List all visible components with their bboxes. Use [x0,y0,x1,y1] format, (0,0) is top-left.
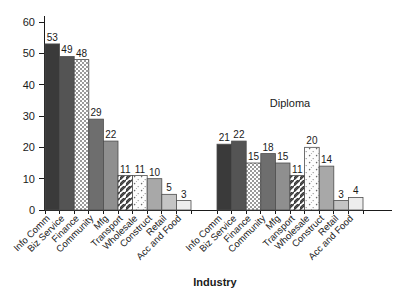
bar-value-label: 53 [47,32,59,43]
bar-chart: 0102030405060 53494829221111105321221518… [0,0,408,297]
bar [217,144,232,210]
bar [290,176,305,210]
bar-value-label: 3 [181,189,187,200]
y-axis-tick-label: 0 [29,204,35,216]
chart-canvas: 0102030405060 53494829221111105321221518… [0,0,408,297]
y-axis-tick-label: 10 [23,173,35,185]
bar [60,56,75,210]
category-labels-layer: Info CommBiz ServiceFinanceCommunityMfgT… [11,212,355,261]
y-axis-tick-label: 50 [23,47,35,59]
bar-value-label: 11 [120,164,131,175]
bar [133,176,148,210]
bars-layer [45,44,363,210]
bar-value-label: 15 [248,151,260,162]
bar [162,194,177,210]
x-axis [44,210,392,214]
bar [319,166,334,210]
bar [147,179,162,210]
bar [334,201,349,210]
bar-value-label: 15 [277,151,289,162]
bar [176,201,191,210]
bar [45,44,60,210]
bar-value-label: 11 [292,164,303,175]
bar [103,141,118,210]
bar-value-label: 11 [135,164,146,175]
bar-value-label: 22 [105,129,117,140]
bar-value-label: 3 [338,189,344,200]
x-axis-title: Industry [193,276,237,288]
bar-value-label: 22 [233,129,245,140]
bar [118,176,133,210]
bar-value-label: 48 [76,48,88,59]
bar-value-label: 10 [149,167,161,178]
bar-value-label: 14 [321,154,333,165]
bar-value-label: 20 [306,135,318,146]
bar [74,60,89,210]
bar [89,119,104,210]
group-label: Diploma [270,97,311,109]
y-axis-tick-label: 40 [23,79,35,91]
bar [348,197,363,210]
bar-value-label: 5 [166,182,172,193]
bar-value-label: 49 [61,44,73,55]
y-axis-tick-label: 20 [23,141,35,153]
bar-value-label: 4 [353,185,359,196]
bar [232,141,247,210]
group-labels-layer: Diploma [270,97,311,109]
bar [246,163,261,210]
y-axis-tick-label: 30 [23,110,35,122]
bar-value-label: 21 [219,132,231,143]
bar [261,154,276,210]
bar-value-label: 29 [91,107,103,118]
y-axis: 0102030405060 [23,16,44,216]
bar-value-label: 18 [263,142,275,153]
y-axis-tick-label: 60 [23,16,35,28]
bar [275,163,290,210]
bar [305,147,320,210]
